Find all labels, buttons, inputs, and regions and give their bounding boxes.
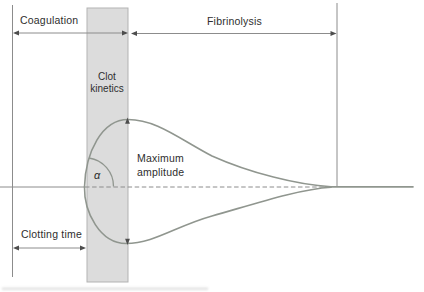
arrowhead-right-icon [80, 245, 86, 250]
clot-kinetics-label-line2: kinetics [90, 83, 123, 94]
maximum-amplitude-label-line1: Maximum [137, 152, 184, 164]
alpha-angle-label: α [94, 169, 101, 181]
maximum-amplitude-label-line2: amplitude [137, 166, 184, 178]
clotting-time-span-arrow [13, 245, 86, 250]
arrowhead-left-icon [13, 245, 19, 250]
arrowhead-left-icon [131, 31, 137, 36]
clot-kinetics-label-line1: Clot [98, 71, 116, 82]
coagulation-label: Coagulation [20, 14, 78, 26]
arrowhead-left-icon [13, 30, 19, 35]
clot-kinetics-band [87, 8, 128, 282]
teg-diagram: Coagulation Fibrinolysis Clot kinetics M… [0, 0, 424, 292]
clotting-time-label: Clotting time [21, 228, 82, 240]
arrowhead-right-icon [331, 31, 337, 36]
fibrinolysis-label: Fibrinolysis [207, 15, 262, 27]
cropped-caption-artifact [2, 288, 208, 291]
teg-diagram-canvas: Coagulation Fibrinolysis Clot kinetics M… [0, 0, 424, 292]
fibrinolysis-span-arrow [131, 31, 337, 36]
